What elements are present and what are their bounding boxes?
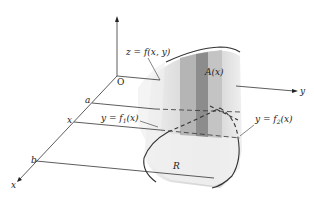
y-axis-label: y bbox=[299, 86, 306, 96]
origin-label: O bbox=[117, 77, 124, 87]
cross-section-slab bbox=[180, 50, 222, 138]
region-label: R bbox=[172, 161, 180, 171]
z-axis bbox=[115, 16, 119, 76]
integration-diagram: O y x a x b z = f(x, y) A(x) R y = f1(x)… bbox=[0, 0, 314, 202]
surface-label: z = f(x, y) bbox=[125, 47, 171, 57]
lower-curve-label: y = f1(x) bbox=[100, 113, 139, 124]
upper-curve-label: y = f2(x) bbox=[254, 114, 293, 125]
mark-x-label: x bbox=[67, 115, 72, 125]
mark-b-label: b bbox=[31, 155, 37, 165]
mark-a-label: a bbox=[85, 95, 90, 105]
cross-section-label: A(x) bbox=[204, 67, 224, 77]
x-axis bbox=[17, 76, 117, 182]
x-axis-label: x bbox=[11, 180, 16, 190]
